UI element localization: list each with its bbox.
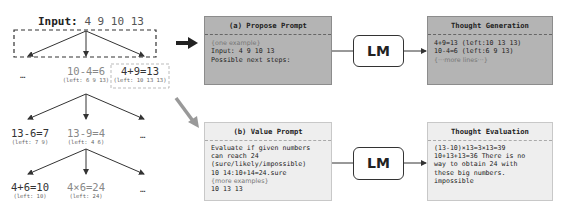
thought-evaluation-title: Thought Evaluation bbox=[428, 123, 552, 141]
output-line: 10+13+13=36 There is no bbox=[434, 152, 525, 160]
prompt-line: can reach 24 bbox=[211, 152, 259, 160]
value-prompt-body: Evaluate if given numbers can reach 24 (… bbox=[205, 141, 331, 197]
node-equation: 13-6=7 bbox=[2, 127, 58, 139]
value-prompt-title: (b) Value Prompt bbox=[205, 123, 331, 141]
tree-node-selected: 4+9=13 (left: 10 13 13) bbox=[112, 65, 168, 84]
value-prompt-panel: (b) Value Prompt Evaluate if given numbe… bbox=[204, 122, 332, 201]
lm-box-top: LM bbox=[353, 35, 404, 67]
node-remaining: (left: 6 9 13) bbox=[58, 77, 114, 84]
node-equation: 4×6=24 bbox=[58, 181, 114, 193]
prompt-line: {one example} bbox=[211, 39, 261, 47]
node-equation: 10-4=6 bbox=[58, 65, 114, 77]
node-remaining: (left: 7 9) bbox=[2, 139, 58, 146]
output-line: way to obtain 24 with bbox=[434, 160, 517, 168]
propose-prompt-panel: (a) Propose Prompt {one example} Input: … bbox=[204, 16, 332, 85]
output-line: 4+9=13 (left:10 13 13) bbox=[434, 39, 521, 47]
thought-evaluation-body: (13-10)×13=3×13=39 10+13+13=36 There is … bbox=[428, 141, 552, 189]
tree-node: 13-6=7 (left: 7 9) bbox=[2, 127, 58, 146]
node-remaining: (left: 4 6) bbox=[58, 139, 114, 146]
input-numbers: 4 9 10 13 bbox=[84, 15, 144, 28]
prompt-line: Input: 4 9 10 13 bbox=[211, 47, 275, 55]
output-line: these big numbers. bbox=[434, 169, 505, 177]
thought-evaluation-panel: Thought Evaluation (13-10)×13=3×13=39 10… bbox=[427, 122, 553, 201]
thought-generation-panel: Thought Generation 4+9=13 (left:10 13 13… bbox=[427, 16, 553, 85]
tree-node: 4×6=24 (left: 24) bbox=[58, 181, 114, 200]
tree-node: 13-9=4 (left: 4 6) bbox=[58, 127, 114, 146]
node-remaining: (left: 10 13 13) bbox=[112, 77, 168, 84]
thought-generation-body: 4+9=13 (left:10 13 13) 10-4=6 (left:6 9 … bbox=[428, 35, 552, 68]
tree-node: 4+6=10 (left: 10) bbox=[2, 181, 58, 200]
output-line: (13-10)×13=3×13=39 bbox=[434, 144, 505, 152]
node-equation: 4+9=13 bbox=[112, 65, 168, 77]
node-remaining: (left: 24) bbox=[58, 193, 114, 200]
tree-node: 10-4=6 (left: 6 9 13) bbox=[58, 65, 114, 84]
node-equation: 13-9=4 bbox=[58, 127, 114, 139]
output-line: {···more lines···} bbox=[434, 56, 488, 64]
prompt-line: {more examples} bbox=[211, 177, 269, 185]
prompt-line: 10 13 13 bbox=[211, 185, 243, 193]
node-equation: 4+6=10 bbox=[2, 181, 58, 193]
prompt-line: Possible next steps: bbox=[211, 56, 290, 64]
lm-box-bottom: LM bbox=[353, 147, 404, 180]
prompt-line: (sure/likely/impossible) bbox=[211, 160, 306, 168]
node-remaining: (left: 10) bbox=[2, 193, 58, 200]
tree-input-label: Input: 4 9 10 13 bbox=[38, 15, 144, 28]
propose-prompt-title: (a) Propose Prompt bbox=[205, 17, 331, 35]
output-line: impossible bbox=[434, 177, 474, 185]
input-keyword: Input: bbox=[38, 15, 78, 28]
tree-ellipsis: … bbox=[140, 184, 145, 194]
propose-prompt-body: {one example} Input: 4 9 10 13 Possible … bbox=[205, 35, 331, 68]
prompt-line: 10 14:10+14=24.sure bbox=[211, 169, 286, 177]
thought-generation-title: Thought Generation bbox=[428, 17, 552, 35]
tree-ellipsis: … bbox=[140, 130, 145, 140]
output-line: 10-4=6 (left:6 9 13) bbox=[434, 47, 513, 55]
prompt-line: Evaluate if given numbers bbox=[211, 144, 310, 152]
tree-ellipsis: … bbox=[20, 70, 25, 80]
